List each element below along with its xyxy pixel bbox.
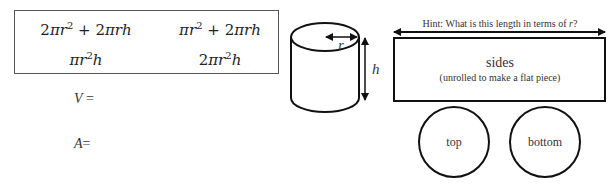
sides-label: sides <box>486 55 514 70</box>
top-label: top <box>446 135 461 149</box>
hint-text: Hint: What is this length in terms of r? <box>423 18 578 29</box>
radius-label: r <box>338 38 344 53</box>
height-label: h <box>372 61 380 77</box>
cylinder-diagram-canvas: r h Hint: What is this length in terms o… <box>0 0 616 186</box>
sides-sublabel: (unrolled to make a flat piece) <box>440 72 561 84</box>
bottom-label: bottom <box>528 135 563 149</box>
